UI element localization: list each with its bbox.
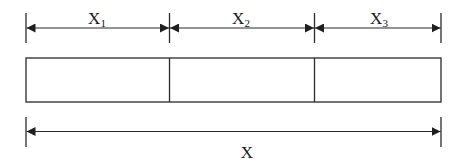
segment-label-x3-main: X (370, 9, 382, 28)
segmented-bar (26, 58, 441, 102)
segment-label-x2-main: X (232, 9, 244, 28)
segment-label-x2: X2 (232, 10, 250, 29)
segment-label-x1-main: X (88, 9, 100, 28)
segment-label-x3: X3 (370, 10, 388, 29)
segment-label-x3-sub: 3 (382, 17, 388, 29)
bar-outline (26, 58, 441, 102)
total-label-x: X (241, 144, 253, 161)
total-label-x-main: X (241, 143, 253, 162)
segment-label-x1-sub: 1 (100, 17, 106, 29)
segment-label-x2-sub: 2 (244, 17, 250, 29)
segment-label-x1: X1 (88, 10, 106, 29)
